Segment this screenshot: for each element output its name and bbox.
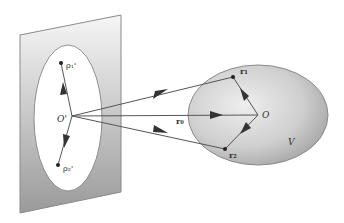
label-plane-origin: O' [57, 114, 67, 124]
label-r0: r₀ [176, 116, 184, 126]
label-r2: r₂ [229, 150, 237, 160]
label-r1: r₁ [240, 66, 248, 76]
label-volume-origin: O [262, 110, 270, 120]
point-r1 [231, 75, 235, 79]
point-r2 [223, 147, 227, 151]
label-rho2: ρ₂' [63, 164, 73, 173]
point-rho2 [56, 163, 60, 167]
arrowhead-ray-r1 [153, 89, 168, 99]
label-rho1: ρ₁' [66, 61, 76, 70]
arrowhead-ray-r2 [153, 125, 168, 133]
point-rho1 [59, 61, 63, 65]
diagram-canvas: ρ₁' ρ₂' O' r₀ r₁ r₂ O V [0, 0, 344, 223]
